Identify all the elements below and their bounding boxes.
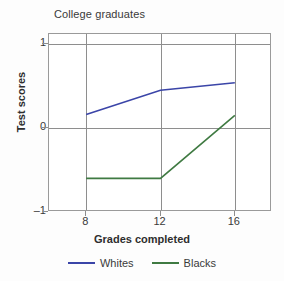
y-tick-mark-0 (42, 127, 48, 128)
x-tick-label-16: 16 (222, 215, 246, 227)
chart-figure: College graduates 1 0 –1 Test scores 8 1… (0, 0, 284, 281)
legend-item-blacks: Blacks (152, 257, 216, 269)
x-tick-label-8: 8 (73, 215, 97, 227)
series-plot (49, 34, 271, 211)
line-series-blacks (86, 115, 235, 178)
x-axis-label: Grades completed (0, 233, 284, 245)
y-tick-label-1: 1 (16, 36, 46, 48)
y-tick-label--1: –1 (16, 204, 46, 216)
line-series-whites (86, 83, 235, 115)
x-tick-label-12: 12 (148, 215, 172, 227)
legend-swatch-blacks (152, 262, 179, 264)
plot-area (48, 33, 271, 211)
legend-item-whites: Whites (68, 257, 134, 269)
x-tick-mark-8 (85, 211, 86, 216)
y-tick-mark-1 (42, 43, 48, 44)
x-tick-mark-16 (234, 211, 235, 216)
chart-legend: Whites Blacks (0, 257, 284, 269)
y-axis-label: Test scores (15, 62, 27, 142)
legend-label-blacks: Blacks (184, 257, 216, 269)
chart-title: College graduates (54, 8, 145, 20)
x-tick-mark-12 (160, 211, 161, 216)
y-tick-mark--1 (42, 211, 48, 212)
legend-swatch-whites (68, 262, 95, 264)
legend-label-whites: Whites (100, 257, 134, 269)
